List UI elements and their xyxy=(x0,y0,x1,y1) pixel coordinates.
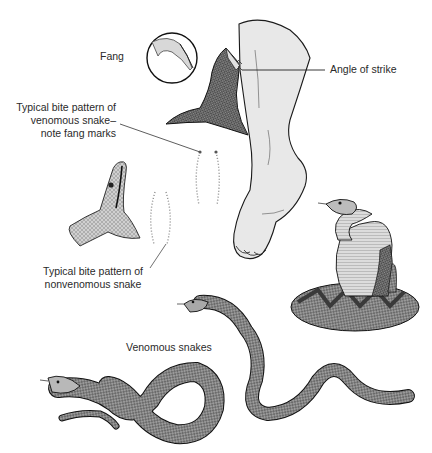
nonvenomous-snake-head xyxy=(69,162,140,246)
venomous-bite-label: Typical bite pattern of venomous snake– … xyxy=(14,101,116,140)
venomous-bite-label-line3: note fang marks xyxy=(14,127,116,140)
foot-and-leg xyxy=(234,20,310,258)
nonvenomous-bite-pattern xyxy=(151,192,171,244)
venomous-snake-figure-eight xyxy=(40,372,215,434)
nonvenomous-bite-leader-line xyxy=(150,244,166,268)
snakebite-illustration: Fang Angle of strike Typical bite patter… xyxy=(0,0,432,453)
venomous-bite-label-line1: Typical bite pattern of xyxy=(14,101,116,114)
venomous-bite-leader-line xyxy=(120,124,200,152)
nonvenomous-bite-label-line2: nonvenomous snake xyxy=(38,278,148,291)
venomous-bite-pattern xyxy=(196,150,219,205)
nonvenomous-bite-label: Typical bite pattern of nonvenomous snak… xyxy=(38,265,148,291)
nonvenomous-bite-label-line1: Typical bite pattern of xyxy=(38,265,148,278)
fang-detail xyxy=(147,33,197,83)
angle-of-strike-label: Angle of strike xyxy=(330,63,397,76)
coiled-rattlesnake xyxy=(291,199,419,331)
venomous-bite-label-line2: venomous snake– xyxy=(14,114,116,127)
fang-label: Fang xyxy=(100,50,124,63)
venomous-snakes-label: Venomous snakes xyxy=(126,341,212,354)
